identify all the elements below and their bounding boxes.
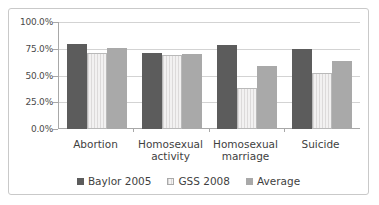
bar-groups	[59, 22, 360, 129]
x-tick-label-homosexual-marriage: Homosexual marriage	[208, 138, 283, 162]
legend-label: Baylor 2005	[88, 175, 152, 187]
bar-group-homosexual-marriage	[210, 22, 285, 129]
x-label-line: marriage	[208, 150, 283, 162]
y-tick-label-0: 0.0%	[31, 125, 53, 134]
y-tick-label-50: 50.0%	[25, 71, 53, 80]
legend-item-average[interactable]: Average	[246, 175, 300, 187]
x-tick-label-homosexual-activity: Homosexual activity	[133, 138, 208, 162]
legend: Baylor 2005 GSS 2008 Average	[9, 175, 368, 187]
x-label-line: Homosexual	[133, 138, 208, 150]
bar-average[interactable]	[257, 66, 277, 129]
x-label-line: Abortion	[58, 138, 133, 150]
legend-swatch-icon	[167, 178, 174, 185]
bar-baylor-2005[interactable]	[142, 53, 162, 129]
bar-gss-2008[interactable]	[312, 73, 332, 129]
plot-wrapper: 100.0% 75.0% 50.0% 25.0% 0.0%	[9, 9, 368, 137]
legend-label: Average	[257, 175, 300, 187]
legend-label: GSS 2008	[178, 175, 230, 187]
legend-item-gss-2008[interactable]: GSS 2008	[167, 175, 230, 187]
x-label-line: activity	[133, 150, 208, 162]
y-axis: 100.0% 75.0% 50.0% 25.0% 0.0%	[9, 9, 57, 131]
bar-average[interactable]	[182, 54, 202, 129]
plot-area	[58, 22, 360, 129]
x-tick-label-abortion: Abortion	[58, 138, 133, 162]
bar-group-abortion	[59, 22, 134, 129]
legend-swatch-icon	[246, 178, 253, 185]
legend-item-baylor-2005[interactable]: Baylor 2005	[77, 175, 152, 187]
y-tick-label-100: 100.0%	[20, 18, 53, 27]
bar-baylor-2005[interactable]	[292, 49, 312, 129]
bar-baylor-2005[interactable]	[217, 45, 237, 129]
y-tick-label-25: 25.0%	[25, 98, 53, 107]
bar-average[interactable]	[332, 61, 352, 129]
y-tick-label-75: 75.0%	[25, 44, 53, 53]
bar-average[interactable]	[107, 48, 127, 129]
x-label-line: Homosexual	[208, 138, 283, 150]
x-tick-label-suicide: Suicide	[283, 138, 358, 162]
x-label-line: Suicide	[283, 138, 358, 150]
bar-gss-2008[interactable]	[237, 88, 257, 129]
bar-baylor-2005[interactable]	[67, 44, 87, 129]
x-axis-labels: Abortion Homosexual activity Homosexual …	[58, 138, 358, 162]
chart-container: 100.0% 75.0% 50.0% 25.0% 0.0%	[8, 8, 369, 195]
y-tick-mark	[53, 129, 58, 130]
legend-swatch-icon	[77, 178, 84, 185]
bar-group-homosexual-activity	[134, 22, 209, 129]
bar-gss-2008[interactable]	[87, 53, 107, 129]
bar-group-suicide	[285, 22, 360, 129]
bar-gss-2008[interactable]	[162, 55, 182, 129]
